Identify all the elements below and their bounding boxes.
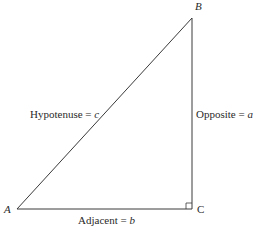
vertex-label-b: B [195,0,202,12]
right-angle-marker [186,203,192,209]
vertex-label-c: C [197,203,204,215]
adjacent-label: Adjacent = b [78,214,135,226]
hypotenuse-label: Hypotenuse = c [30,108,99,120]
right-triangle-diagram: B A C Hypotenuse = c Opposite = a Adjace… [0,0,255,230]
opposite-label: Opposite = a [196,108,253,120]
vertex-label-a: A [3,203,11,215]
